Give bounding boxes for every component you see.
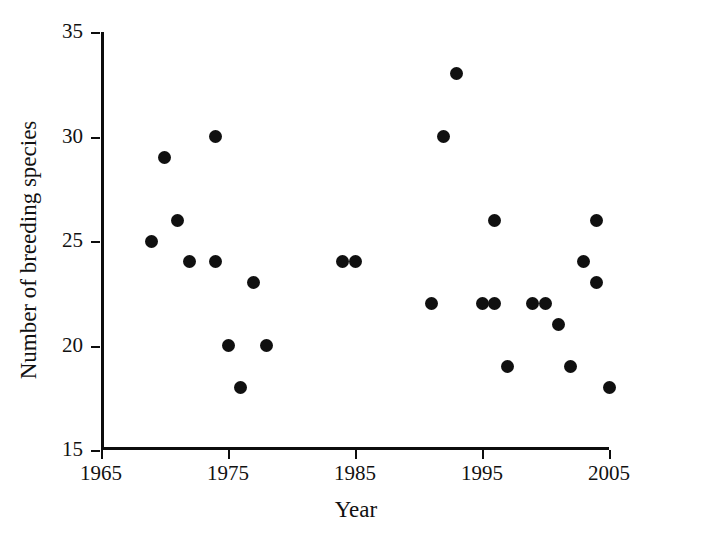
data-point [539,297,552,310]
x-tick-label: 1985 [334,463,376,484]
data-point [247,276,260,289]
data-point [590,214,603,227]
data-points-layer [101,25,611,450]
data-point [336,255,349,268]
y-tick-label: 30 [62,126,83,147]
x-tick-label: 1975 [207,463,249,484]
data-point [603,381,616,394]
y-tick-label: 20 [62,335,83,356]
data-point [577,255,590,268]
x-tick [355,450,357,459]
x-tick [101,450,103,459]
data-point [171,214,184,227]
plot-area: 1520253035 19651975198519952005 Number o… [101,25,611,450]
y-tick [91,137,100,139]
data-point [526,297,539,310]
y-tick-label: 15 [62,439,83,460]
x-tick-label: 1995 [461,463,503,484]
data-point [501,360,514,373]
data-point [349,255,362,268]
x-tick [482,450,484,459]
scatter-plot-figure: 1520253035 19651975198519952005 Number o… [0,0,727,541]
x-tick-label: 2005 [588,463,630,484]
data-point [158,151,171,164]
y-tick-label: 35 [62,21,83,42]
x-tick [609,450,611,459]
data-point [145,235,158,248]
data-point [209,255,222,268]
x-tick [228,450,230,459]
x-tick-label: 1965 [80,463,122,484]
y-tick-label: 25 [62,230,83,251]
data-point [183,255,196,268]
x-axis-title: Year [101,497,611,523]
data-point [260,339,273,352]
data-point [488,297,501,310]
data-point [209,130,222,143]
y-axis-title: Number of breeding species [16,40,42,460]
data-point [476,297,489,310]
y-tick [91,241,100,243]
y-tick [91,450,100,452]
data-point [234,381,247,394]
data-point [590,276,603,289]
y-tick [91,32,100,34]
data-point [450,67,463,80]
data-point [222,339,235,352]
data-point [437,130,450,143]
data-point [425,297,438,310]
data-point [488,214,501,227]
data-point [564,360,577,373]
y-tick [91,346,100,348]
data-point [552,318,565,331]
